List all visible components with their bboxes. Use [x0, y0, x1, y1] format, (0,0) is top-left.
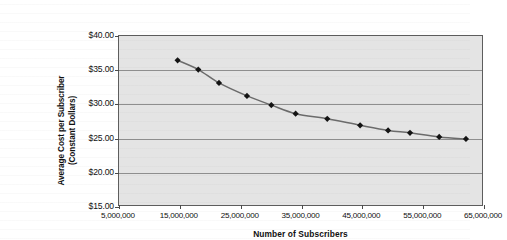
data-point-marker: [436, 134, 442, 140]
data-point-marker: [293, 111, 299, 117]
data-point-marker: [385, 127, 391, 133]
data-point-marker: [175, 57, 181, 63]
data-point-marker: [407, 130, 413, 136]
cost-per-subscriber-chart: Average Cost per Subscriber (Constant Do…: [40, 16, 507, 240]
data-point-marker: [324, 116, 330, 122]
series-line: [178, 60, 466, 139]
x-axis-tick-label: 65,000,000: [438, 211, 507, 220]
x-axis-title: Number of Subscribers: [118, 229, 483, 239]
data-point-marker: [195, 66, 201, 72]
data-point-marker: [244, 93, 250, 99]
data-point-marker: [357, 122, 363, 128]
data-point-marker: [216, 80, 222, 86]
data-series-layer: [40, 16, 507, 240]
data-point-marker: [268, 102, 274, 108]
data-point-marker: [463, 136, 469, 142]
